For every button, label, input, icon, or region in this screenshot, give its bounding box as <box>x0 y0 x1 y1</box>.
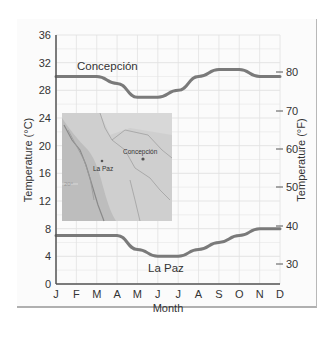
x-tick-label: J <box>53 288 59 300</box>
x-tick-label: A <box>195 288 203 300</box>
y-axis-left-ticks: 04812162024283236 <box>39 29 51 290</box>
y-axis-right-title: Temperature (°F) <box>295 118 307 201</box>
y-right-tick-label: 80 <box>286 66 298 78</box>
y-axis-left-title: Temperature (°C) <box>22 118 34 202</box>
x-axis-title: Month <box>153 302 184 314</box>
series-line-concepcin <box>56 70 280 98</box>
x-tick-label: D <box>276 288 284 300</box>
y-tick-label: 12 <box>39 195 51 207</box>
concepcion-map-marker <box>141 157 144 160</box>
map-inset: Concepción La Paz 20° <box>62 113 172 221</box>
y-tick-label: 4 <box>45 250 51 262</box>
y-right-tick-label: 40 <box>286 220 298 232</box>
x-tick-label: J <box>155 288 161 300</box>
x-tick-label: M <box>133 288 142 300</box>
temperature-chart: Concepción La Paz 20° 04812162024283236 … <box>0 0 335 338</box>
x-axis-ticks: JFMAMJJASOND <box>53 288 284 300</box>
y-tick-label: 8 <box>45 223 51 235</box>
lapaz-map-marker <box>101 160 104 163</box>
y-tick-label: 36 <box>39 29 51 41</box>
x-tick-label: F <box>73 288 80 300</box>
x-tick-label: N <box>256 288 264 300</box>
x-tick-label: J <box>175 288 181 300</box>
y-tick-label: 20 <box>39 140 51 152</box>
y-right-tick-label: 30 <box>286 258 298 270</box>
y-tick-label: 0 <box>45 278 51 290</box>
y-tick-label: 16 <box>39 167 51 179</box>
series-label-concepcion: Concepción <box>77 60 138 72</box>
x-tick-label: S <box>215 288 222 300</box>
x-tick-label: M <box>92 288 101 300</box>
map-label-latitude: 20° <box>64 181 74 187</box>
series-label-lapaz: La Paz <box>148 262 184 274</box>
map-label-lapaz: La Paz <box>93 165 113 172</box>
y-tick-label: 32 <box>39 57 51 69</box>
y-tick-label: 28 <box>39 84 51 96</box>
x-tick-label: A <box>113 288 121 300</box>
y-right-tick-label: 70 <box>286 105 298 117</box>
y-tick-label: 24 <box>39 112 51 124</box>
map-label-concepcion: Concepción <box>123 148 158 156</box>
x-tick-label: O <box>235 288 244 300</box>
